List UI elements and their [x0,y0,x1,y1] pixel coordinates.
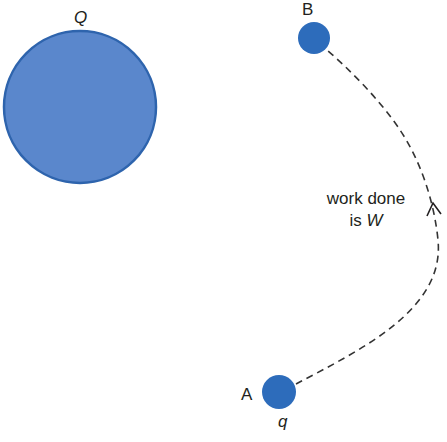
work-symbol: W [366,211,382,230]
annotation-prefix: is [349,211,366,230]
annotation-line-2: is W [318,210,414,232]
work-done-annotation: work done is W [318,188,414,232]
point-b-charge [298,22,330,54]
label-q-source: Q [74,9,87,26]
source-charge-q [4,31,156,183]
label-point-a: A [241,386,252,403]
annotation-line-1: work done [318,188,414,210]
label-point-b: B [302,1,313,18]
label-charge-q-small: q [278,413,287,430]
point-a-charge [262,375,296,409]
